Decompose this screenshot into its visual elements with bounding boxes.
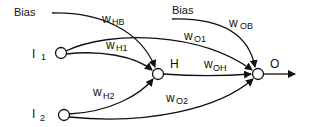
node-i2 (59, 110, 70, 121)
edge-h-to-o (163, 74, 251, 76)
node-o (253, 69, 264, 80)
weight-wh1: w (105, 38, 115, 52)
label-o: O (270, 57, 279, 71)
weight-whb: w (101, 12, 111, 26)
node-h (153, 69, 164, 80)
weight-wh1-sub: H1 (116, 43, 128, 53)
weight-wo2: w (165, 91, 175, 105)
weight-wo1: w (183, 29, 193, 43)
label-i1: I (32, 47, 35, 61)
weight-wob: w (228, 16, 238, 30)
weight-whb-sub: HB (112, 17, 125, 27)
label-bias-h: Bias (14, 6, 36, 18)
weight-wob-sub: OB (240, 21, 253, 31)
weight-wh2-sub: H2 (103, 91, 115, 101)
label-i2: I (32, 107, 35, 121)
node-i1 (56, 48, 67, 59)
weight-wo2-sub: O2 (176, 96, 188, 106)
neural-network-diagram: Bias Bias I 1 I 2 H O w HB w H1 w H2 w O… (0, 0, 315, 127)
weight-wo1-sub: O1 (194, 34, 206, 44)
label-i2-sub: 2 (40, 113, 45, 123)
edge-i1-to-h (66, 53, 152, 70)
label-i1-sub: 1 (41, 52, 46, 62)
weight-woh-sub: OH (213, 63, 227, 73)
label-h: H (170, 57, 179, 71)
weight-wh2: w (92, 85, 102, 99)
weight-woh: w (203, 57, 213, 71)
label-bias-o: Bias (172, 4, 194, 16)
